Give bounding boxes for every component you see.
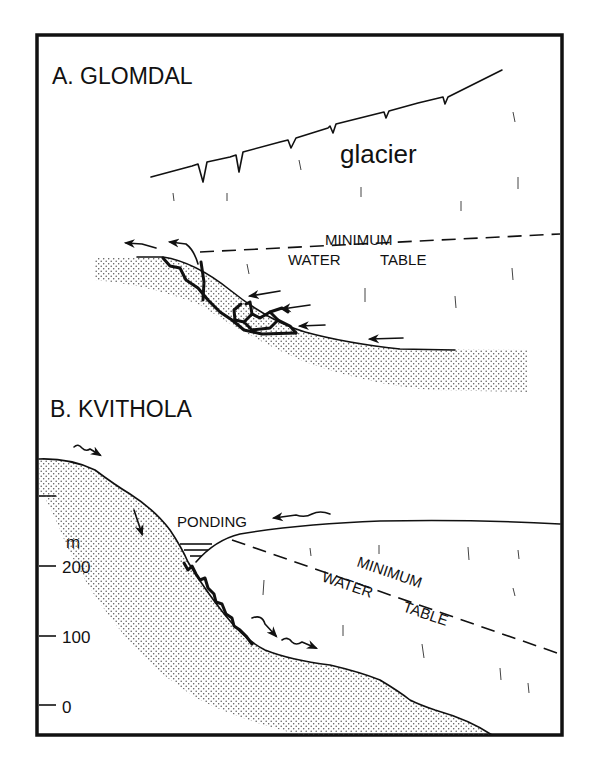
panel-a-title: A. GLOMDAL bbox=[52, 63, 193, 89]
arrow-icon bbox=[370, 338, 403, 339]
arrow-icon bbox=[74, 445, 100, 455]
panel-a: A. GLOMDAL glacier MINIMUM WATER TABLE bbox=[52, 63, 560, 392]
arrow-icon bbox=[282, 305, 310, 309]
glacier-label: glacier bbox=[340, 139, 417, 169]
panel-b-title: B. KVITHOLA bbox=[50, 396, 193, 422]
glacier-surface-b bbox=[196, 520, 560, 562]
scale-label-100: 100 bbox=[62, 628, 90, 647]
water-table-label-water: WATER bbox=[288, 251, 341, 268]
water-table-label-minimum: MINIMUM bbox=[325, 231, 393, 248]
diagram-canvas: A. GLOMDAL glacier MINIMUM WATER TABLE bbox=[0, 0, 595, 765]
arrow-icon bbox=[126, 243, 156, 248]
glacier-surface-line bbox=[151, 70, 502, 182]
panel-b: B. KVITHOLA m 200 100 0 PONDING MINIMUM bbox=[39, 396, 560, 735]
bedrock-stipple-b bbox=[39, 459, 490, 735]
ponding-label: PONDING bbox=[177, 513, 247, 530]
water-table-label-table: TABLE bbox=[380, 251, 426, 268]
bedrock-stipple-a bbox=[95, 257, 527, 392]
water-table-b-label-table: TABLE bbox=[401, 598, 450, 629]
scale-label-0: 0 bbox=[62, 698, 71, 717]
arrow-icon bbox=[300, 325, 325, 326]
minimum-water-table-line-b bbox=[232, 540, 560, 654]
arrow-icon bbox=[282, 638, 316, 648]
arrow-icon bbox=[250, 291, 280, 296]
arrow-icon bbox=[274, 512, 330, 518]
arrow-icon bbox=[252, 617, 276, 636]
